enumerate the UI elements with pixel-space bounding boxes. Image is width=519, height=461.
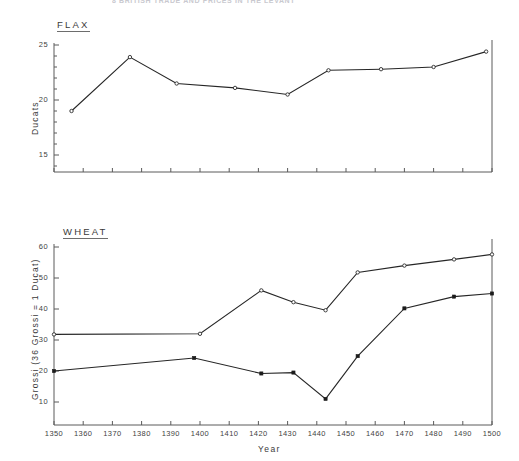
x-tick-label: 1360 [68,429,98,438]
wheat-y-tick-label: 60 [22,242,48,251]
x-tick-label: 1380 [127,429,157,438]
x-tick-label: 1390 [156,429,186,438]
x-tick-label: 1440 [302,429,332,438]
wheat-y-tick-label: 50 [22,273,48,282]
x-tick-label: 1410 [214,429,244,438]
x-tick-label: 1480 [419,429,449,438]
x-tick-label: 1500 [477,429,507,438]
wheat-y-tick-label: 20 [22,366,48,375]
x-tick-label: 1490 [448,429,478,438]
x-tick-label: 1370 [97,429,127,438]
x-tick-label: 1420 [243,429,273,438]
x-tick-label: 1470 [389,429,419,438]
x-tick-label: 1450 [331,429,361,438]
wheat-y-tick-label: 30 [22,335,48,344]
x-tick-label: 1460 [360,429,390,438]
x-axis-label: Year [258,444,281,454]
x-tick-label: 1350 [39,429,69,438]
x-tick-label: 1400 [185,429,215,438]
wheat-plot [0,0,519,461]
wheat-y-tick-label: 40 [22,304,48,313]
x-tick-label: 1430 [273,429,303,438]
wheat-y-tick-label: 10 [22,397,48,406]
figure-two-line-charts: 8 BRITISH TRADE AND PRICES IN THE LEVANT… [0,0,519,461]
